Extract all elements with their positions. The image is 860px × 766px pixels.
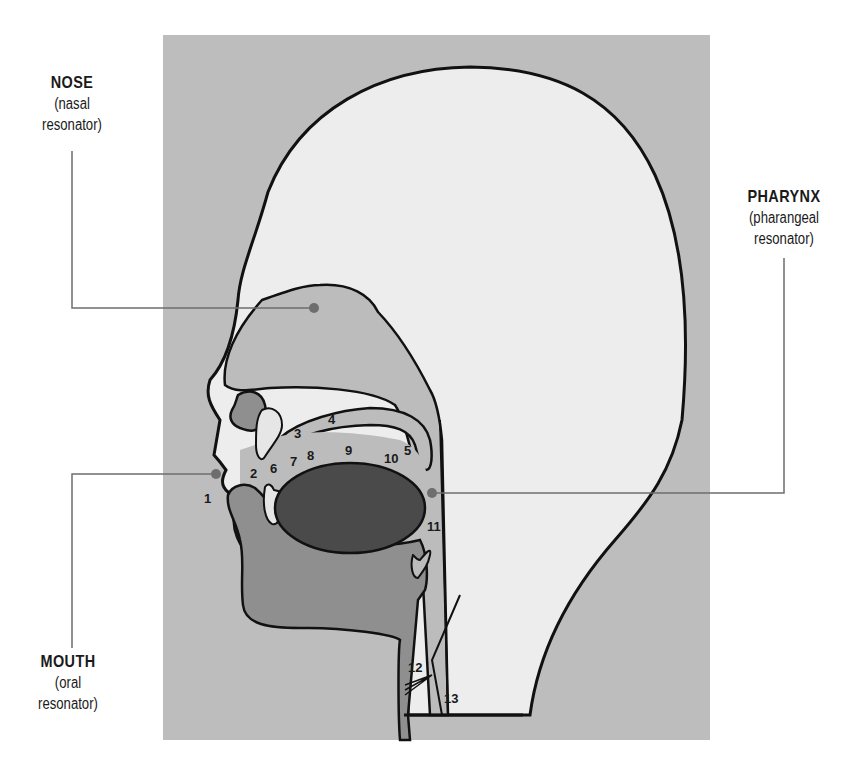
callout-mouth-title: MOUTH [26, 651, 111, 672]
callout-nose: NOSE (nasal resonator) [22, 72, 122, 135]
callout-mouth: MOUTH (oral resonator) [18, 651, 118, 714]
label-11: 11 [427, 519, 441, 534]
label-6: 6 [270, 461, 277, 476]
callout-nose-line1: (nasal [31, 93, 113, 114]
callout-nose-line2: resonator) [31, 114, 113, 135]
label-2: 2 [250, 466, 257, 481]
label-7: 7 [290, 454, 297, 469]
label-5: 5 [404, 443, 411, 458]
vocal-tract-diagram: 1 2 3 4 5 6 7 8 9 10 11 12 13 [0, 0, 860, 766]
callout-mouth-line2: resonator) [27, 693, 109, 714]
callout-pharynx-title: PHARYNX [733, 186, 835, 207]
label-12: 12 [408, 660, 422, 675]
callout-pharynx: PHARYNX (pharangeal resonator) [724, 186, 844, 249]
label-8: 8 [307, 448, 314, 463]
label-3: 3 [294, 426, 301, 441]
callout-pharynx-line2: resonator) [735, 228, 833, 249]
callout-pharynx-line1: (pharangeal [735, 207, 833, 228]
label-9: 9 [345, 443, 352, 458]
label-10: 10 [384, 451, 398, 466]
callout-mouth-line1: (oral [27, 672, 109, 693]
tongue [275, 463, 425, 553]
callout-nose-title: NOSE [30, 72, 115, 93]
label-1: 1 [204, 491, 211, 506]
label-4: 4 [328, 412, 336, 427]
label-13: 13 [444, 691, 458, 706]
